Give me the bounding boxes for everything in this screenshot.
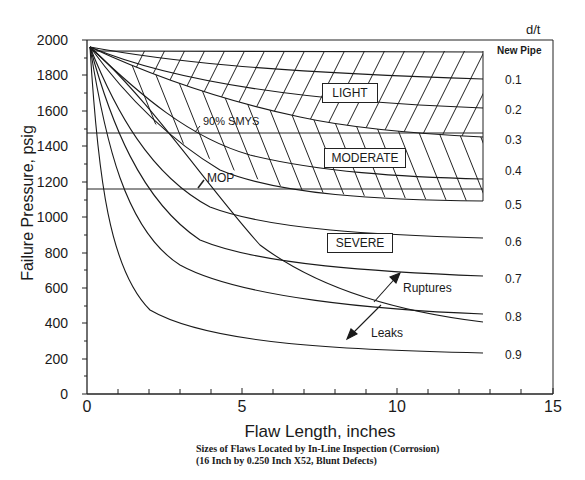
ytick-label: 200 — [8, 351, 68, 367]
smys-label: 90% SMYS — [203, 115, 259, 127]
xtick-label: 5 — [222, 398, 262, 416]
legend-title: d/t — [526, 22, 540, 37]
legend-label: 0.8 — [505, 310, 575, 324]
legend-label: 0.5 — [505, 198, 575, 212]
mop-pointer — [198, 180, 204, 188]
x-axis-title: Flaw Length, inches — [160, 422, 480, 442]
caption-line-2: (16 Inch by 0.250 Inch X52, Blunt Defect… — [196, 455, 377, 466]
moderate-region-label: MODERATE — [324, 148, 406, 168]
y-axis-title: Failure Pressure, psig — [19, 103, 37, 303]
legend-label: 0.9 — [505, 348, 575, 362]
x-ticks — [118, 388, 553, 394]
xtick-label: 15 — [533, 398, 573, 416]
ruptures-label: Ruptures — [403, 281, 452, 295]
ytick-label: 1000 — [8, 209, 68, 225]
legend-label-new-pipe: New Pipe — [497, 45, 567, 56]
plot-frame — [87, 40, 553, 394]
ytick-label: 1200 — [8, 174, 68, 190]
legend-label: 0.3 — [505, 133, 575, 147]
ytick-label: 1800 — [8, 67, 68, 83]
ytick-label: 0 — [8, 386, 68, 402]
legend-label: 0.1 — [505, 73, 575, 87]
xtick-label: 0 — [67, 398, 107, 416]
severe-region-label: SEVERE — [327, 233, 393, 253]
leaks-label: Leaks — [371, 326, 403, 340]
legend-label: 0.7 — [505, 272, 575, 286]
curve-0.6 — [90, 47, 483, 238]
ytick-label: 1600 — [8, 103, 68, 119]
legend-label: 0.6 — [505, 235, 575, 249]
smys-pointer — [195, 126, 200, 132]
y-ticks — [82, 40, 87, 394]
legend-label: 0.4 — [505, 164, 575, 178]
ytick-label: 400 — [8, 315, 68, 331]
xtick-label: 10 — [377, 398, 417, 416]
legend-label: 0.2 — [505, 103, 575, 117]
caption-line-1: Sizes of Flaws Located by In-Line Inspec… — [196, 443, 439, 454]
ytick-label: 600 — [8, 280, 68, 296]
ytick-label: 2000 — [8, 32, 68, 48]
mop-label: MOP — [207, 171, 234, 185]
ytick-label: 1400 — [8, 138, 68, 154]
light-region-label: LIGHT — [322, 83, 378, 103]
ytick-label: 800 — [8, 245, 68, 261]
curve-0.7 — [90, 47, 483, 276]
